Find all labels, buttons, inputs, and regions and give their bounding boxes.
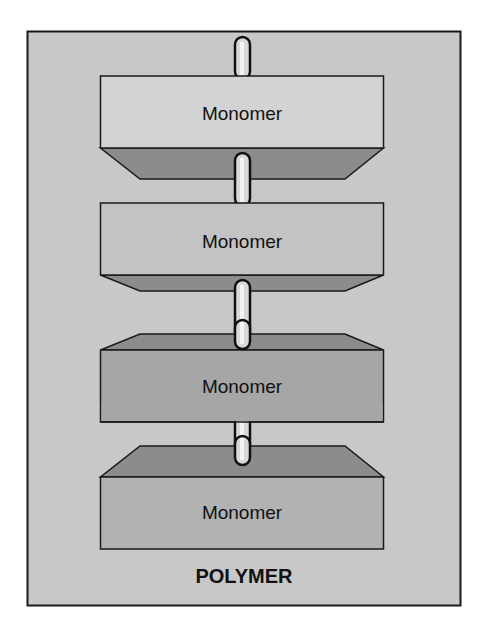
bond-rod-cap bbox=[235, 436, 250, 465]
monomer-label: Monomer bbox=[202, 231, 283, 252]
monomer-label: Monomer bbox=[202, 502, 283, 523]
bond-rod-cap bbox=[235, 320, 250, 349]
monomer-label: Monomer bbox=[202, 103, 283, 124]
diagram-title: POLYMER bbox=[195, 565, 293, 587]
monomer-block-2: Monomer bbox=[101, 203, 384, 291]
bond-rod bbox=[235, 37, 250, 79]
monomer-label: Monomer bbox=[202, 376, 283, 397]
polymer-diagram: Monomer Monomer Monomer Monomer bbox=[0, 0, 490, 634]
bond-rod bbox=[235, 153, 250, 206]
